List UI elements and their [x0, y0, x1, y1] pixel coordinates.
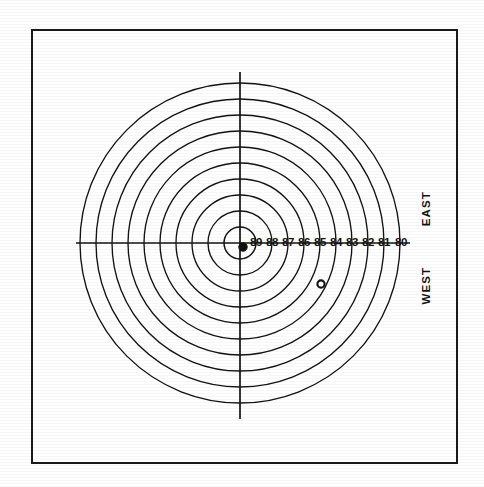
range-ring-label: 88 [266, 237, 278, 249]
range-ring-label: 80 [395, 237, 407, 249]
compass-label-east: EAST [421, 191, 433, 226]
range-ring-label: 87 [282, 237, 294, 249]
range-ring-label: 89 [250, 237, 262, 249]
range-ring-label: 81 [378, 237, 390, 249]
range-ring-label: 84 [330, 237, 342, 249]
range-ring-label: 86 [298, 237, 310, 249]
range-ring-label: 83 [346, 237, 358, 249]
compass-label-west: WEST [421, 267, 433, 305]
range-ring-label: 82 [362, 237, 374, 249]
range-ring-label: 85 [314, 237, 326, 249]
figure-root: 89888786858483828180 EAST WEST [0, 0, 484, 487]
